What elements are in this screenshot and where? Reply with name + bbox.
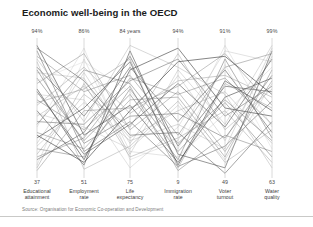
axis-title-line2: expectancy xyxy=(117,194,144,200)
axis-title-1[interactable]: Educationalattainment xyxy=(10,188,64,201)
axis-title-line2: quality xyxy=(264,194,279,200)
source-note: Source: Organisation for Economic Co-ope… xyxy=(22,207,163,212)
axis-title-line1: Voter xyxy=(219,188,231,194)
axis-title-line1: Water xyxy=(265,188,279,194)
chart-card: Economic well-being in the OECD 94%37Edu… xyxy=(0,0,313,227)
axis-max-label-1: 94% xyxy=(32,28,43,34)
axis-min-label-3: 75 xyxy=(127,179,133,185)
axis-max-label-2: 86% xyxy=(79,28,90,34)
axis-title-line1: Educational xyxy=(23,188,51,194)
axis-title-6[interactable]: Waterquality xyxy=(245,188,299,201)
axis-min-label-1: 37 xyxy=(34,179,40,185)
axis-max-label-5: 91% xyxy=(220,28,231,34)
series-line xyxy=(37,86,272,170)
axis-min-label-5: 49 xyxy=(222,179,228,185)
axis-title-line1: Life xyxy=(126,188,135,194)
axis-title-3[interactable]: Lifeexpectancy xyxy=(103,188,157,201)
axis-title-line1: Employment xyxy=(69,188,98,194)
axis-title-line2: turnout xyxy=(217,194,234,200)
series-line xyxy=(37,59,272,154)
series-lines-layer xyxy=(37,45,272,173)
axis-title-4[interactable]: Immigrationrate xyxy=(151,188,205,201)
axis-title-5[interactable]: Voterturnout xyxy=(198,188,252,201)
axis-min-label-6: 63 xyxy=(269,179,275,185)
axis-max-label-4: 94% xyxy=(173,28,184,34)
axis-title-line2: rate xyxy=(173,194,182,200)
axis-max-label-6: 99% xyxy=(267,28,278,34)
axis-min-label-4: 9 xyxy=(176,179,179,185)
footer-divider xyxy=(0,216,313,217)
axis-min-label-2: 51 xyxy=(81,179,87,185)
axis-title-line2: rate xyxy=(79,194,88,200)
axis-max-label-3: 84 years xyxy=(119,28,140,34)
axis-title-line2: attainment xyxy=(25,194,50,200)
axis-title-line1: Immigration xyxy=(164,188,192,194)
